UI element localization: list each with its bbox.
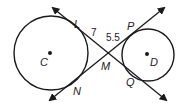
tangent-line-np — [107, 8, 164, 54]
length-mp: 5.5 — [106, 32, 120, 43]
label-q: Q — [126, 76, 135, 88]
label-n: N — [73, 85, 81, 97]
length-lm: 7 — [91, 27, 97, 38]
label-l: L — [74, 18, 80, 30]
center-dot-d — [145, 52, 149, 56]
label-c: C — [40, 56, 48, 68]
diagram-svg: C D L P M N Q 7 5.5 — [0, 0, 183, 103]
geometry-diagram: C D L P M N Q 7 5.5 — [0, 0, 183, 103]
label-d: D — [150, 56, 158, 68]
label-m: M — [101, 60, 111, 72]
center-dot-c — [48, 51, 52, 55]
label-p: P — [127, 20, 135, 32]
